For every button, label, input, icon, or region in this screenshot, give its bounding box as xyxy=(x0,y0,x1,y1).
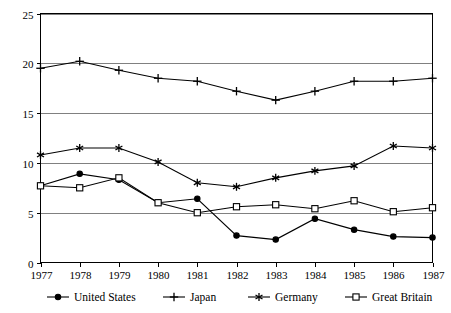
legend-japan-marker-plus xyxy=(170,293,178,301)
legend-item-germany[interactable]: Germany xyxy=(248,291,318,304)
series-united-states-pt-1985-marker-filled-circle xyxy=(351,227,356,232)
series-japan-pt-1980-marker-plus xyxy=(154,74,162,82)
series-united-states-pt-1987-marker-filled-circle xyxy=(430,235,435,240)
x-tick-label-1981: 1981 xyxy=(187,269,209,281)
series-germany-pt-1980-marker-asterisk xyxy=(155,158,162,166)
y-tick-label-20: 20 xyxy=(23,58,35,70)
x-tick-label-1987: 1987 xyxy=(423,269,446,281)
series-line-germany xyxy=(41,146,433,187)
series-japan xyxy=(36,57,436,104)
series-united-states-pt-1982-marker-filled-circle xyxy=(234,233,239,238)
y-tick-label-5: 5 xyxy=(28,208,34,220)
series-japan-pt-1986-marker-plus xyxy=(389,77,397,85)
x-axis: 1977197819791980198119821983198419851986… xyxy=(31,263,446,281)
series-great-britain xyxy=(37,175,435,216)
series-japan-pt-1985-marker-plus xyxy=(350,77,358,85)
series-great-britain-pt-1979-marker-open-square xyxy=(116,175,122,181)
series-japan-pt-1979-marker-plus xyxy=(115,66,123,74)
x-tick-label-1983: 1983 xyxy=(266,269,289,281)
series-great-britain-pt-1984-marker-open-square xyxy=(312,206,318,212)
legend-label-great-britain: Great Britain xyxy=(372,291,433,303)
x-tick-label-1978: 1978 xyxy=(70,269,93,281)
x-tick-label-1977: 1977 xyxy=(31,269,54,281)
legend: United StatesJapanGermanyGreat Britain xyxy=(47,291,433,304)
line-chart: 0510152025197719781979198019811982198319… xyxy=(0,0,451,313)
plot-area-border xyxy=(41,14,433,263)
legend-item-united-states[interactable]: United States xyxy=(47,291,136,303)
x-tick-label-1980: 1980 xyxy=(148,269,171,281)
series-great-britain-pt-1987-marker-open-square xyxy=(429,205,435,211)
x-tick-label-1986: 1986 xyxy=(383,269,406,281)
series-japan-pt-1983-marker-plus xyxy=(272,96,280,104)
series-japan-pt-1978-marker-plus xyxy=(76,57,84,65)
x-tick-label-1985: 1985 xyxy=(344,269,367,281)
legend-label-japan: Japan xyxy=(190,291,216,304)
plot-frame xyxy=(41,14,433,263)
legend-label-united-states: United States xyxy=(74,291,136,303)
legend-great-britain-marker-open-square xyxy=(353,294,359,300)
y-axis: 0510152025 xyxy=(23,9,41,270)
series-great-britain-pt-1980-marker-open-square xyxy=(155,200,161,206)
y-tick-label-15: 15 xyxy=(23,108,35,120)
x-tick-label-1982: 1982 xyxy=(227,269,249,281)
y-tick-label-25: 25 xyxy=(23,9,35,21)
y-tick-label-10: 10 xyxy=(23,158,35,170)
series-united-states-pt-1984-marker-filled-circle xyxy=(312,216,317,221)
series-united-states-pt-1978-marker-filled-circle xyxy=(77,171,82,176)
x-tick-label-1984: 1984 xyxy=(305,269,328,281)
series-united-states-pt-1986-marker-filled-circle xyxy=(391,234,396,239)
series-great-britain-pt-1983-marker-open-square xyxy=(273,202,279,208)
legend-label-germany: Germany xyxy=(275,291,318,304)
legend-item-japan[interactable]: Japan xyxy=(163,291,216,304)
series-japan-pt-1984-marker-plus xyxy=(311,87,319,95)
series-united-states-pt-1981-marker-filled-circle xyxy=(195,196,200,201)
series-great-britain-pt-1986-marker-open-square xyxy=(390,209,396,215)
chart-canvas: 0510152025197719781979198019811982198319… xyxy=(0,0,451,313)
legend-united-states-marker-filled-circle xyxy=(55,294,60,299)
series-united-states-pt-1983-marker-filled-circle xyxy=(273,237,278,242)
series-japan-pt-1977-marker-plus xyxy=(36,64,44,72)
series-great-britain-pt-1977-marker-open-square xyxy=(37,183,43,189)
legend-item-great-britain[interactable]: Great Britain xyxy=(345,291,433,303)
series-great-britain-pt-1982-marker-open-square xyxy=(233,204,239,210)
series-japan-pt-1981-marker-plus xyxy=(193,77,201,85)
series-great-britain-pt-1981-marker-open-square xyxy=(194,210,200,216)
series-great-britain-pt-1985-marker-open-square xyxy=(351,198,357,204)
series-great-britain-pt-1978-marker-open-square xyxy=(77,185,83,191)
series-japan-pt-1982-marker-plus xyxy=(232,87,240,95)
x-tick-label-1979: 1979 xyxy=(109,269,132,281)
series-japan-pt-1987-marker-plus xyxy=(428,74,436,82)
